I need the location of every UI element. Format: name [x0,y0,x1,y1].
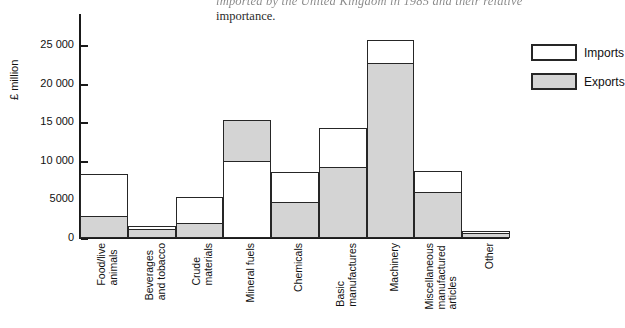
category-label: Machinery [389,243,401,291]
category-label-line: animals [107,243,119,286]
category-label: Food/liveanimals [96,243,119,286]
y-tick [81,238,88,240]
category-label: Mineral fuels [245,243,257,303]
bar-segment-exports [128,229,176,238]
category-label: Basicmanufactures [335,243,358,307]
legend-item-imports[interactable]: Imports [531,44,625,61]
legend-label-imports: Imports [584,46,624,60]
y-tick-label: 0 [0,231,74,243]
y-tick-label: 25 000 [0,38,74,50]
grey-box-icon [531,73,577,90]
y-tick-label: 20 000 [0,77,74,89]
bar-segment-exports [176,223,224,238]
bar-group[interactable] [80,14,128,238]
category-label-line: Machinery [389,243,401,291]
white-box-icon [531,44,577,61]
category-label: Crudematerials [191,243,214,286]
category-label: Miscellaneousmanufacturedarticles [424,243,459,310]
category-label-line: and tobacco [155,243,167,300]
bar-group[interactable] [223,14,271,238]
category-label: Other [484,243,496,269]
bar-segment-exports [367,63,415,238]
bar-group[interactable] [128,14,176,238]
legend: Imports Exports [531,44,625,102]
bar-segment-imports [223,161,271,238]
bar-group[interactable] [367,14,415,238]
bar-segment-exports [462,233,510,238]
bar-group[interactable] [462,14,510,238]
y-tick-label: 15 000 [0,115,74,127]
bar-group[interactable] [271,14,319,238]
bar-group[interactable] [414,14,462,238]
bar-segment-exports [319,167,367,238]
bar-segment-exports [80,216,128,238]
plot-area [80,14,510,238]
category-label-line: materials [203,243,215,286]
y-tick-label: 10 000 [0,154,74,166]
category-label-line: Other [484,243,496,269]
category-label-line: articles [447,243,459,310]
category-label-line: Mineral fuels [245,243,257,303]
y-tick-label: 5000 [0,192,74,204]
category-label: Beveragesand tobacco [144,243,167,300]
category-label-line: Food/live [96,243,108,286]
category-label-line: manufactures [346,243,358,307]
category-label-line: Basic [335,243,347,307]
bar-segment-exports [271,202,319,238]
bar-segment-exports [414,192,462,238]
category-label-line: Beverages [144,243,156,300]
legend-label-exports: Exports [584,75,625,89]
bar-group[interactable] [176,14,224,238]
legend-item-exports[interactable]: Exports [531,73,625,90]
category-label-line: Chemicals [293,243,305,292]
category-label: Chemicals [293,243,305,292]
bar-group[interactable] [319,14,367,238]
